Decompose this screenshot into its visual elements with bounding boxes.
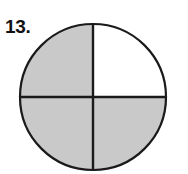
fraction-circle-figure: 13.	[0, 0, 188, 174]
fraction-circle-graphic	[0, 0, 188, 174]
